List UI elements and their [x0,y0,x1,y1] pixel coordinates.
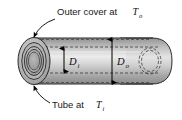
inner-diameter-subscript: i [78,62,80,70]
inner-diameter-label: D [68,56,77,67]
outer-cover-label-text: Outer cover at [57,6,118,17]
inner-tube-temperature-subscript: i [103,105,105,112]
outer-diameter-subscript: o [126,62,130,70]
tube-in-cover-diagram: D i D o Outer cover at T o Tube at T i [0,0,182,120]
outer-cover-body [34,38,172,84]
inner-tube-label-text: Tube at [52,99,84,110]
callout-inner-tube: Tube at T i [34,86,105,112]
figure-container: D i D o Outer cover at T o Tube at T i [0,0,182,120]
inner-tube-bore [28,52,39,70]
inner-tube-leader-line [34,86,50,103]
left-end-face [18,38,50,85]
outer-cover-temperature-subscript: o [139,12,143,19]
outer-cover-leader-line [34,19,55,37]
outer-diameter-label: D [116,56,125,67]
callout-outer-cover: Outer cover at T o [34,6,143,37]
